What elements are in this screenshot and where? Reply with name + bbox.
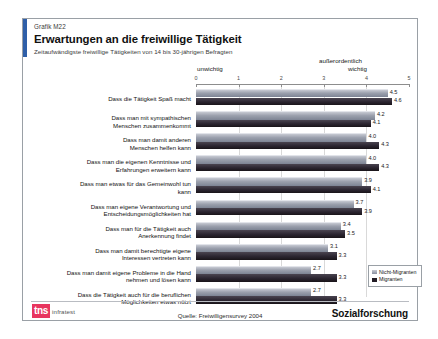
bar-m — [196, 98, 392, 105]
axis-caption-high-line1: außerordentlich — [319, 57, 362, 65]
x-axis-line — [196, 84, 409, 85]
x-tick-label: 0 — [195, 75, 198, 81]
x-tick — [324, 84, 325, 87]
x-tick — [239, 84, 240, 87]
bar-m — [196, 142, 379, 149]
bar-row: 3.13.3 — [196, 243, 409, 265]
legend-item: Migranten — [372, 276, 418, 283]
bar-nm — [196, 266, 311, 274]
bar-nm — [196, 200, 354, 208]
legend-swatch — [372, 270, 377, 275]
bar-value-label: 3.3 — [339, 274, 347, 281]
x-tick-label: 2 — [280, 75, 283, 81]
legend-label: Migranten — [379, 276, 403, 283]
slide-frame: Grafik M22 Erwartungen an die freiwillig… — [22, 18, 418, 321]
bar-nm — [196, 222, 341, 230]
bar-nm — [196, 133, 366, 141]
category-label: Dass man die eigenen Kenntnisse undErfah… — [31, 154, 191, 176]
category-label: Dass die Tätigkeit Spaß macht — [31, 88, 191, 110]
bar-value-label: 3.9 — [364, 208, 372, 215]
bar-nm — [196, 177, 362, 185]
footer-divider — [31, 301, 409, 302]
x-tick-label: 3 — [322, 75, 325, 81]
x-tick-label: 5 — [408, 75, 411, 81]
bar-m — [196, 186, 371, 193]
bar-value-label: 4.1 — [373, 186, 381, 193]
bar-nm — [196, 244, 328, 252]
header: Grafik M22 Erwartungen an die freiwillig… — [34, 22, 411, 56]
bar-nm — [196, 288, 311, 296]
bar-value-label: 4.0 — [368, 133, 376, 140]
bar-value-label: 4.6 — [394, 97, 402, 104]
bar-row: 4.24.1 — [196, 110, 409, 132]
header-accent-bar — [23, 19, 27, 57]
bar-value-label: 2.7 — [313, 265, 321, 272]
bar-value-label: 3.5 — [347, 230, 355, 237]
bar-value-label: 3.1 — [330, 243, 338, 250]
x-tick — [409, 84, 410, 87]
legend-label: Nicht-Migranten — [379, 269, 416, 276]
bar-row: 3.94.1 — [196, 176, 409, 198]
category-label: Dass man für die Tätigkeit auchAnerkennu… — [31, 221, 191, 243]
page-subtitle: Zeitaufwändigste freiwillige Tätigkeiten… — [34, 47, 411, 56]
bar-value-label: 3.7 — [356, 199, 364, 206]
bar-value-label: 3.3 — [339, 296, 347, 303]
bar-row: 4.04.3 — [196, 132, 409, 154]
chart-plot-area: 012345 4.54.64.24.14.04.34.04.33.94.13.7… — [196, 75, 409, 297]
bar-m — [196, 274, 337, 281]
bar-value-label: 4.3 — [381, 163, 389, 170]
division-label: Sozialforschung — [332, 308, 408, 319]
bar-nm — [196, 111, 375, 119]
x-tick — [196, 84, 197, 87]
page-title: Erwartungen an die freiwillige Tätigkeit — [34, 32, 411, 46]
x-tick — [281, 84, 282, 87]
bar-row: 3.73.9 — [196, 198, 409, 220]
bar-m — [196, 252, 337, 259]
bar-value-label: 2.7 — [313, 287, 321, 294]
bar-value-label: 4.2 — [377, 111, 385, 118]
chart-legend: Nicht-MigrantenMigranten — [368, 265, 422, 287]
category-label: Dass man damit berechtigte eigeneInteres… — [31, 243, 191, 265]
legend-swatch — [372, 278, 377, 283]
bar-value-label: 4.0 — [368, 155, 376, 162]
x-tick-label: 1 — [237, 75, 240, 81]
x-tick-label: 4 — [365, 75, 368, 81]
bar-row: 4.54.6 — [196, 88, 409, 110]
bar-value-label: 3.4 — [343, 221, 351, 228]
graphic-id: Grafik M22 — [34, 22, 411, 31]
bar-value-label: 4.3 — [381, 141, 389, 148]
category-labels: Dass die Tätigkeit Spaß machtDass man mi… — [31, 88, 191, 309]
bar-nm — [196, 89, 388, 97]
bar-m — [196, 230, 345, 237]
bar-row: 3.43.5 — [196, 221, 409, 243]
axis-caption-low: unwichtig — [197, 65, 223, 73]
x-tick — [366, 84, 367, 87]
bar-row: 4.04.3 — [196, 154, 409, 176]
category-label: Dass man damit anderenMenschen helfen ka… — [31, 132, 191, 154]
bar-value-label: 3.3 — [339, 252, 347, 259]
bar-m — [196, 208, 362, 215]
category-label: Dass man mit sympathischenMenschen zusam… — [31, 110, 191, 132]
axis-caption-high-line2: wichtig — [348, 65, 367, 73]
bar-value-label: 4.1 — [373, 119, 381, 126]
category-label: Dass man etwas für das Gemeinwohl tunkan… — [31, 176, 191, 198]
bar-m — [196, 120, 371, 127]
legend-item: Nicht-Migranten — [372, 269, 418, 276]
bar-value-label: 3.9 — [364, 177, 372, 184]
bar-nm — [196, 155, 366, 163]
category-label: Dass man eigene Verantwortung undEntsche… — [31, 198, 191, 220]
bar-m — [196, 164, 379, 171]
bar-row: 2.73.3 — [196, 287, 409, 309]
category-label: Dass man damit eigene Probleme in die Ha… — [31, 265, 191, 287]
bar-value-label: 4.5 — [390, 89, 398, 96]
